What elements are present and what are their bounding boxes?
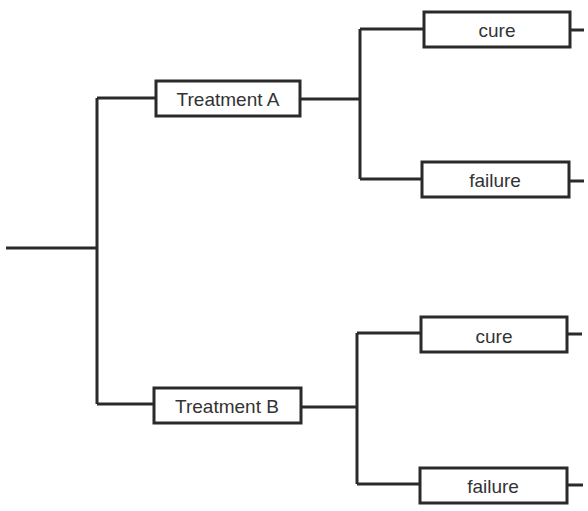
a-failure-node: failure: [422, 162, 569, 197]
decision-tree-diagram: Treatment A cure failure Treatment B cur…: [0, 0, 588, 511]
a-cure-label: cure: [479, 20, 516, 41]
treatment-a-node: Treatment A: [156, 81, 300, 116]
treatment-b-label: Treatment B: [175, 396, 279, 417]
treatment-a-label: Treatment A: [177, 89, 280, 110]
a-failure-label: failure: [469, 170, 521, 191]
treatment-b-node: Treatment B: [154, 388, 301, 423]
a-cure-node: cure: [424, 12, 570, 47]
b-cure-node: cure: [421, 317, 567, 352]
b-failure-label: failure: [467, 476, 519, 497]
b-failure-node: failure: [420, 468, 567, 503]
b-cure-label: cure: [476, 326, 513, 347]
